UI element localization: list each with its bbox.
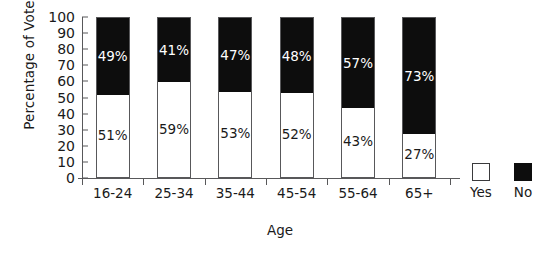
x-category-label: 25-34: [154, 187, 193, 201]
bar-segment-no: 48%: [281, 18, 313, 95]
bar-value-label-yes: 27%: [403, 148, 435, 162]
y-tick-mark: [82, 145, 88, 146]
stacked-bar: 57%43%: [341, 17, 375, 178]
bar-value-label-no: 41%: [158, 44, 190, 58]
bar-segment-no: 57%: [342, 18, 374, 110]
bar-value-label-yes: 43%: [342, 135, 374, 149]
bar-value-label-no: 73%: [403, 70, 435, 84]
legend-swatch-icon: [514, 163, 532, 181]
chart-legend: YesNo: [464, 163, 546, 205]
bar-segment-no: 49%: [97, 18, 129, 97]
y-tick-label: 70: [41, 58, 75, 72]
x-category-label: 45-54: [277, 187, 316, 201]
x-category-label: 35-44: [216, 187, 255, 201]
bar-slot: 47%53%: [218, 17, 252, 178]
y-tick-mark: [82, 81, 88, 82]
plot-area: 0102030405060708090100 49%51%41%59%47%53…: [82, 17, 450, 178]
x-category-label: 55-64: [338, 187, 377, 201]
stacked-bar: 48%52%: [280, 17, 314, 178]
y-axis-title: Percentage of Vote: [18, 0, 40, 140]
bar-slot: 49%51%: [96, 17, 130, 178]
y-tick-label: 50: [41, 91, 75, 105]
y-tick-label: 60: [41, 74, 75, 88]
y-tick-label: 40: [41, 107, 75, 121]
x-category-label: 16-24: [93, 187, 132, 201]
x-tick-mark: [82, 178, 83, 185]
bar-segment-yes: 43%: [342, 108, 374, 177]
bar-value-label-no: 48%: [281, 50, 313, 64]
bar-value-label-yes: 51%: [97, 129, 129, 143]
y-tick-mark: [82, 49, 88, 50]
bar-value-label-no: 49%: [97, 50, 129, 64]
y-tick-label: 90: [41, 26, 75, 40]
bar-slot: 73%27%: [402, 17, 436, 178]
bar-slot: 48%52%: [280, 17, 314, 178]
stacked-bar: 41%59%: [157, 17, 191, 178]
chart-figure: Percentage of Vote 010203040506070809010…: [0, 0, 550, 257]
x-tick-mark: [266, 178, 267, 185]
y-tick-mark: [82, 17, 88, 18]
bar-segment-yes: 27%: [403, 134, 435, 177]
bar-value-label-yes: 59%: [158, 123, 190, 137]
y-tick-mark: [82, 97, 88, 98]
y-tick-label: 20: [41, 139, 75, 153]
y-tick-mark: [82, 129, 88, 130]
y-tick-mark: [82, 113, 88, 114]
legend-label: Yes: [464, 186, 498, 200]
x-tick-mark: [205, 178, 206, 185]
bar-segment-no: 73%: [403, 18, 435, 136]
bar-value-label-no: 47%: [219, 49, 251, 63]
bar-segment-no: 47%: [219, 18, 251, 94]
y-tick-label: 100: [41, 10, 75, 24]
bar-slot: 41%59%: [157, 17, 191, 178]
y-tick-mark: [82, 161, 88, 162]
y-tick-label: 0: [41, 171, 75, 185]
x-axis-line: [78, 178, 460, 179]
bar-segment-yes: 51%: [97, 95, 129, 177]
stacked-bar: 47%53%: [218, 17, 252, 178]
bar-segment-yes: 53%: [219, 92, 251, 177]
x-axis-title: Age: [0, 222, 550, 238]
y-tick-label: 30: [41, 123, 75, 137]
bar-segment-yes: 52%: [281, 93, 313, 177]
legend-label: No: [506, 186, 540, 200]
legend-item-yes[interactable]: Yes: [464, 163, 498, 200]
bar-value-label-yes: 52%: [281, 128, 313, 142]
x-tick-mark: [389, 178, 390, 185]
y-tick-mark: [82, 65, 88, 66]
x-tick-mark: [327, 178, 328, 185]
bar-value-label-yes: 53%: [219, 127, 251, 141]
stacked-bar: 49%51%: [96, 17, 130, 178]
bar-value-label-no: 57%: [342, 57, 374, 71]
x-tick-mark: [450, 178, 451, 185]
x-tick-mark: [143, 178, 144, 185]
bar-segment-no: 41%: [158, 18, 190, 84]
y-tick-label: 80: [41, 42, 75, 56]
legend-swatch-icon: [472, 163, 490, 181]
bar-segment-yes: 59%: [158, 82, 190, 177]
bar-slot: 57%43%: [341, 17, 375, 178]
stacked-bar: 73%27%: [402, 17, 436, 178]
x-category-label: 65+: [405, 187, 434, 201]
legend-item-no[interactable]: No: [506, 163, 540, 200]
y-tick-mark: [82, 33, 88, 34]
y-tick-label: 10: [41, 155, 75, 169]
